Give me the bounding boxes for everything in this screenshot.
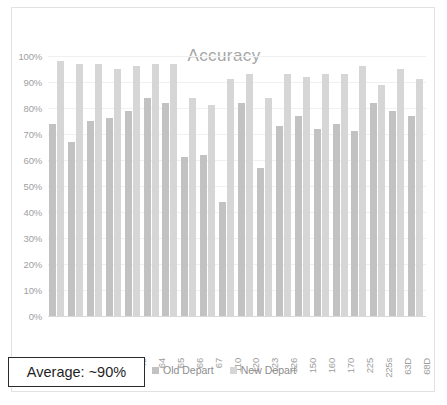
bar-old-depart [370, 103, 377, 316]
bar-group [350, 56, 369, 316]
bar-old-depart [238, 103, 245, 316]
bar-old-depart [314, 129, 321, 316]
bar-old-depart [144, 98, 151, 316]
bar-group [218, 56, 237, 316]
legend-swatch-icon [152, 367, 159, 374]
y-tick-label: 10% [24, 285, 42, 296]
bar-old-depart [68, 142, 75, 316]
bar-group [275, 56, 294, 316]
plot-area [48, 56, 426, 316]
bar-old-depart [87, 121, 94, 316]
average-callout-text: Average: ~90% [27, 364, 126, 380]
bar-old-depart [106, 118, 113, 316]
bar-new-depart [170, 64, 177, 316]
bar-group [256, 56, 275, 316]
bar-old-depart [181, 157, 188, 316]
bar-group [180, 56, 199, 316]
bar-new-depart [133, 66, 140, 316]
bar-new-depart [341, 74, 348, 316]
bar-group [407, 56, 426, 316]
bar-group [388, 56, 407, 316]
gridline-0 [48, 316, 426, 317]
bar-old-depart [200, 155, 207, 316]
bar-group [161, 56, 180, 316]
average-callout-box: Average: ~90% [8, 357, 145, 387]
bar-new-depart [227, 79, 234, 316]
bar-new-depart [208, 105, 215, 316]
legend-swatch-icon [230, 367, 237, 374]
bar-old-depart [389, 111, 396, 316]
y-tick-label: 100% [19, 51, 43, 62]
bar-old-depart [257, 168, 264, 316]
bar-old-depart [351, 131, 358, 316]
bar-series-container [48, 56, 426, 316]
bar-group [237, 56, 256, 316]
chart-footer: Average: ~90% Old DepartNew Depart [0, 355, 447, 395]
bar-new-depart [189, 98, 196, 316]
bar-old-depart [162, 103, 169, 316]
y-tick-label: 30% [24, 233, 42, 244]
bar-group [67, 56, 86, 316]
bar-new-depart [378, 85, 385, 316]
bar-new-depart [284, 74, 291, 316]
bar-old-depart [408, 116, 415, 316]
chart-legend: Old DepartNew Depart [152, 364, 296, 376]
bar-group [294, 56, 313, 316]
bar-new-depart [303, 77, 310, 316]
y-tick-label: 80% [24, 103, 42, 114]
bar-new-depart [95, 64, 102, 316]
bar-new-depart [322, 74, 329, 316]
y-axis: 100%90%80%70%60%50%40%30%20%10%0% [12, 56, 46, 316]
legend-label: New Depart [241, 364, 296, 376]
bar-group [332, 56, 351, 316]
legend-label: Old Depart [163, 364, 214, 376]
bar-new-depart [359, 66, 366, 316]
bar-new-depart [114, 69, 121, 316]
legend-item[interactable]: Old Depart [152, 364, 214, 376]
bar-group [86, 56, 105, 316]
y-tick-label: 20% [24, 259, 42, 270]
y-tick-label: 40% [24, 207, 42, 218]
bar-group [199, 56, 218, 316]
bar-new-depart [416, 79, 423, 316]
bar-group [124, 56, 143, 316]
bar-old-depart [333, 124, 340, 316]
bar-new-depart [246, 74, 253, 316]
bar-old-depart [295, 116, 302, 316]
chart-card: Accuracy 100%90%80%70%60%50%40%30%20%10%… [11, 7, 435, 392]
bar-old-depart [49, 124, 56, 316]
bar-new-depart [57, 61, 64, 316]
bar-new-depart [76, 64, 83, 316]
bar-old-depart [276, 126, 283, 316]
bar-group [143, 56, 162, 316]
y-tick-label: 70% [24, 129, 42, 140]
bar-group [369, 56, 388, 316]
bar-group [313, 56, 332, 316]
bar-new-depart [397, 69, 404, 316]
bar-old-depart [125, 111, 132, 316]
y-tick-label: 50% [24, 181, 42, 192]
bar-new-depart [265, 98, 272, 316]
bar-new-depart [152, 64, 159, 316]
y-tick-label: 0% [29, 311, 42, 322]
y-tick-label: 90% [24, 77, 42, 88]
bar-group [105, 56, 124, 316]
bar-group [48, 56, 67, 316]
y-tick-label: 60% [24, 155, 42, 166]
bar-old-depart [219, 202, 226, 316]
legend-item[interactable]: New Depart [230, 364, 296, 376]
